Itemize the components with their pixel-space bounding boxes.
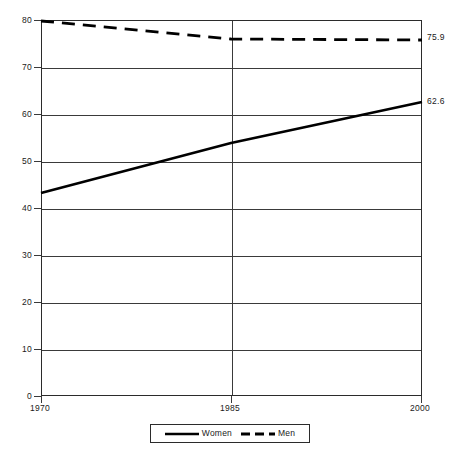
x-tick-mark-1985 (231, 396, 232, 403)
legend-label-men: Men (278, 429, 295, 438)
x-tick-mark-2000 (421, 396, 422, 403)
value-label-women-2000: 62.6 (427, 97, 445, 106)
legend-item-men[interactable]: Men (241, 429, 295, 438)
y-tick-label-10: 10 (4, 345, 32, 354)
y-tick-mark-10 (34, 349, 41, 350)
series-line-men (41, 21, 422, 40)
y-tick-label-60: 60 (4, 110, 32, 119)
x-tick-label-1970: 1970 (30, 404, 50, 413)
legend-label-women: Women (202, 429, 232, 438)
y-tick-label-50: 50 (4, 157, 32, 166)
series-line-women (41, 102, 422, 193)
legend-swatch-solid-icon (165, 430, 199, 438)
legend: Women Men (150, 424, 310, 443)
y-tick-label-80: 80 (4, 16, 32, 25)
y-tick-mark-20 (34, 302, 41, 303)
y-tick-mark-40 (34, 208, 41, 209)
legend-swatch-dashed-icon (241, 430, 275, 438)
y-tick-mark-50 (34, 161, 41, 162)
line-chart: 80 70 60 50 40 30 20 10 0 75.9 62.6 (0, 0, 460, 467)
y-tick-mark-70 (34, 67, 41, 68)
y-tick-label-40: 40 (4, 204, 32, 213)
value-label-men-2000: 75.9 (427, 33, 445, 42)
y-tick-mark-80 (34, 20, 41, 21)
x-tick-label-1985: 1985 (220, 404, 240, 413)
y-tick-label-20: 20 (4, 298, 32, 307)
y-tick-mark-0 (34, 396, 41, 397)
y-tick-label-30: 30 (4, 251, 32, 260)
legend-item-women[interactable]: Women (165, 429, 232, 438)
y-tick-mark-60 (34, 114, 41, 115)
y-tick-mark-30 (34, 255, 41, 256)
y-tick-label-70: 70 (4, 63, 32, 72)
x-tick-mark-1970 (41, 396, 42, 403)
x-tick-label-2000: 2000 (410, 404, 430, 413)
y-tick-label-0: 0 (4, 392, 32, 401)
series-layer (41, 20, 422, 396)
